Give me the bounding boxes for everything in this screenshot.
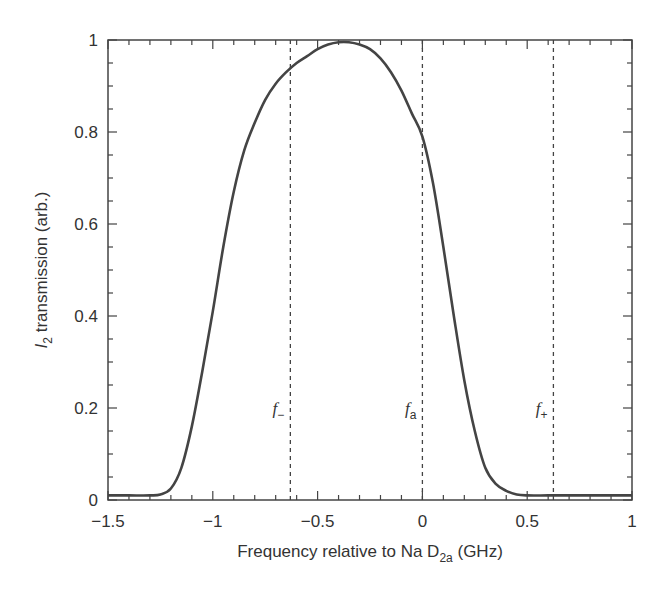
x-tick-label: 1 — [627, 512, 636, 531]
x-tick-label: 0 — [418, 512, 427, 531]
frequency-markers: f−faf+ — [273, 40, 554, 500]
f-plus-label: f+ — [536, 399, 548, 422]
plot-border — [108, 40, 632, 500]
y-tick-label: 0.4 — [74, 307, 98, 326]
plot-frame — [108, 40, 632, 500]
x-tick-label: 0.5 — [515, 512, 539, 531]
x-axis-title: Frequency relative to Na D2a (GHz) — [237, 542, 503, 565]
y-tick-label: 0.6 — [74, 215, 98, 234]
y-tick-label: 0 — [89, 491, 98, 510]
y-tick-label: 0.2 — [74, 399, 98, 418]
f-minus-label: f− — [273, 399, 285, 422]
tick-labels: −1.5−1−0.500.5100.20.40.60.81 — [74, 31, 636, 531]
y-axis-title: I2 transmission (arb.) — [32, 192, 55, 349]
axis-ticks — [108, 40, 632, 500]
f-a-label: fa — [405, 399, 417, 422]
x-tick-label: −1 — [203, 512, 222, 531]
x-tick-label: −1.5 — [91, 512, 125, 531]
transmission-chart: −1.5−1−0.500.5100.20.40.60.81 f−faf+ Fre… — [0, 0, 660, 591]
y-tick-label: 0.8 — [74, 123, 98, 142]
x-tick-label: −0.5 — [301, 512, 335, 531]
y-tick-label: 1 — [89, 31, 98, 50]
